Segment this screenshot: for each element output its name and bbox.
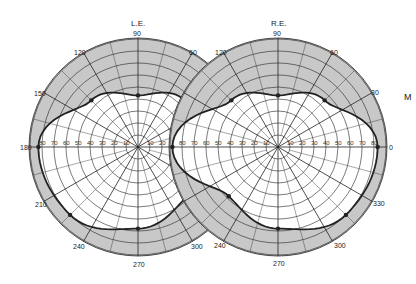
- le-angle-150: 150: [34, 90, 46, 97]
- radial-tick-label: 60: [347, 140, 354, 146]
- le-angle-180: 180: [20, 144, 32, 151]
- radial-tick-label: 10: [287, 140, 294, 146]
- radial-tick-label: 50: [215, 140, 222, 146]
- re-angle-0: 0: [389, 144, 393, 151]
- radial-tick-label: 20: [299, 140, 306, 146]
- field-point: [276, 226, 280, 230]
- left-eye-title: L.E.: [131, 19, 145, 28]
- radial-tick-label: 80: [39, 140, 46, 146]
- side-letter: M: [404, 92, 412, 102]
- radial-tick-label: 80: [371, 140, 378, 146]
- re-angle-30: 30: [371, 89, 379, 96]
- le-angle-60: 60: [189, 49, 197, 56]
- radial-tick-label: 50: [335, 140, 342, 146]
- radial-tick-label: 40: [87, 140, 94, 146]
- field-point: [227, 194, 231, 198]
- field-point: [276, 93, 280, 97]
- radial-tick-label: 20: [251, 140, 258, 146]
- radial-tick-label: 50: [75, 140, 82, 146]
- field-point: [136, 226, 140, 230]
- re-angle-300: 300: [334, 242, 346, 249]
- re-angle-60: 60: [330, 49, 338, 56]
- field-point: [229, 98, 233, 102]
- radial-tick-label: 40: [227, 140, 234, 146]
- re-angle-240: 240: [214, 242, 226, 249]
- field-point: [322, 98, 326, 102]
- radial-tick-label: 70: [191, 140, 198, 146]
- radial-tick-label: 10: [147, 140, 154, 146]
- radial-tick-label: 70: [359, 140, 366, 146]
- le-angle-300: 300: [191, 243, 203, 250]
- radial-tick-label: 10: [263, 140, 270, 146]
- radial-tick-label: 10: [123, 140, 130, 146]
- radial-tick-label: 40: [323, 140, 330, 146]
- le-angle-270: 270: [133, 261, 145, 268]
- radial-tick-label: 30: [311, 140, 318, 146]
- radial-tick-label: 80: [179, 140, 186, 146]
- radial-tick-label: 20: [159, 140, 166, 146]
- radial-tick-label: 60: [63, 140, 70, 146]
- radial-tick-label: 60: [203, 140, 210, 146]
- le-angle-120: 120: [74, 49, 86, 56]
- field-point: [136, 93, 140, 97]
- field-point: [89, 98, 93, 102]
- re-angle-270: 270: [273, 260, 285, 267]
- radial-tick-label: 30: [99, 140, 106, 146]
- re-angle-120: 120: [215, 49, 227, 56]
- radial-tick-label: 70: [51, 140, 58, 146]
- le-angle-240: 240: [73, 243, 85, 250]
- radial-tick-label: 30: [239, 140, 246, 146]
- re-angle-90: 90: [273, 30, 281, 37]
- field-point: [344, 213, 348, 217]
- field-point: [68, 213, 72, 217]
- le-angle-90: 90: [133, 30, 141, 37]
- radial-tick-label: 20: [111, 140, 118, 146]
- field-point: [170, 145, 174, 149]
- visual-field-chart: 10102020303040405050606070708080 1010202…: [0, 0, 416, 284]
- re-angle-330: 330: [373, 200, 385, 207]
- right-eye-title: R.E.: [271, 19, 287, 28]
- right-eye-field: 10102020303040405050606070708080: [169, 38, 387, 256]
- le-angle-210: 210: [35, 201, 47, 208]
